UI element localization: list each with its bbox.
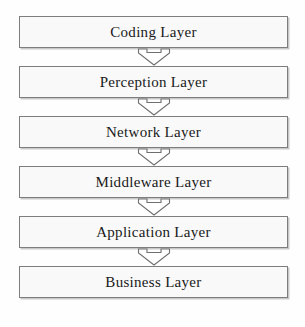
layered-architecture-diagram: Coding Layer Perception Layer: [0, 0, 305, 327]
hollow-down-arrow-icon: [132, 248, 176, 266]
connector-coding-to-perception: [19, 48, 288, 66]
hollow-down-arrow-icon: [132, 48, 176, 66]
connector-network-to-middleware: [19, 148, 288, 166]
layer-row: Middleware Layer: [19, 166, 288, 198]
layer-row: Network Layer: [19, 116, 288, 148]
hollow-down-arrow-icon: [132, 198, 176, 216]
connector-perception-to-network: [19, 98, 288, 116]
hollow-down-arrow-icon: [132, 148, 176, 166]
layer-row: Perception Layer: [19, 66, 288, 98]
layer-box-coding[interactable]: Coding Layer: [19, 16, 288, 48]
layer-stack: Coding Layer Perception Layer: [19, 16, 288, 298]
layer-box-network[interactable]: Network Layer: [19, 116, 288, 148]
layer-label: Perception Layer: [100, 75, 208, 90]
layer-box-middleware[interactable]: Middleware Layer: [19, 166, 288, 198]
layer-label: Business Layer: [105, 275, 201, 290]
layer-box-application[interactable]: Application Layer: [19, 216, 288, 248]
layer-box-perception[interactable]: Perception Layer: [19, 66, 288, 98]
layer-box-business[interactable]: Business Layer: [19, 266, 288, 298]
layer-label: Coding Layer: [110, 25, 197, 40]
layer-label: Application Layer: [96, 225, 211, 240]
layer-row: Application Layer: [19, 216, 288, 248]
connector-application-to-business: [19, 248, 288, 266]
layer-row: Business Layer: [19, 266, 288, 298]
layer-label: Middleware Layer: [96, 175, 212, 190]
layer-label: Network Layer: [106, 125, 201, 140]
hollow-down-arrow-icon: [132, 98, 176, 116]
layer-row: Coding Layer: [19, 16, 288, 48]
connector-middleware-to-application: [19, 198, 288, 216]
